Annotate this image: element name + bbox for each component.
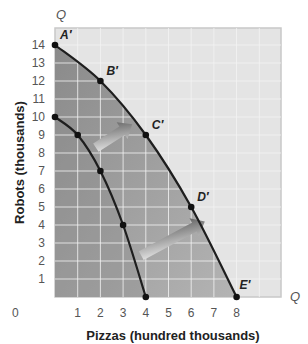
svg-text:7: 7 [211, 306, 218, 320]
data-point [52, 114, 59, 121]
svg-text:4: 4 [38, 218, 45, 232]
svg-text:2: 2 [38, 254, 45, 268]
svg-text:4: 4 [142, 306, 149, 320]
data-point [74, 132, 81, 139]
origin-label: 0 [12, 306, 19, 320]
svg-text:6: 6 [188, 306, 195, 320]
svg-text:10: 10 [32, 110, 46, 124]
svg-text:8: 8 [38, 146, 45, 160]
svg-text:5: 5 [165, 306, 172, 320]
svg-text:6: 6 [38, 182, 45, 196]
data-point [52, 42, 59, 49]
x-axis-label: Pizzas (hundred thousands) [86, 328, 259, 343]
svg-text:8: 8 [233, 306, 240, 320]
svg-text:5: 5 [38, 200, 45, 214]
svg-text:7: 7 [38, 164, 45, 178]
y-axis-label: Robots (thousands) [12, 101, 27, 224]
data-point [97, 78, 104, 85]
ppf-chart: A′B′C′D′E′ 1234567812345678910111213140Q… [0, 0, 308, 344]
svg-text:9: 9 [38, 128, 45, 142]
point-label: B′ [106, 64, 119, 78]
svg-text:11: 11 [33, 92, 46, 106]
data-point [97, 168, 104, 175]
data-point [143, 132, 150, 139]
svg-text:1: 1 [74, 306, 81, 320]
svg-text:2: 2 [97, 306, 104, 320]
data-point [120, 222, 127, 229]
data-point [143, 294, 150, 301]
svg-text:14: 14 [32, 38, 46, 52]
svg-text:1: 1 [38, 272, 45, 286]
x-axis-symbol: Q [290, 289, 300, 304]
svg-text:13: 13 [32, 56, 46, 70]
svg-text:3: 3 [120, 306, 127, 320]
data-point [188, 204, 195, 211]
y-axis-symbol: Q [56, 7, 66, 22]
svg-text:3: 3 [38, 236, 45, 250]
point-label: E′ [240, 278, 252, 292]
svg-text:12: 12 [32, 74, 46, 88]
point-label: A′ [59, 28, 73, 42]
point-label: D′ [197, 190, 210, 204]
data-point [233, 294, 240, 301]
point-label: C′ [152, 118, 165, 132]
